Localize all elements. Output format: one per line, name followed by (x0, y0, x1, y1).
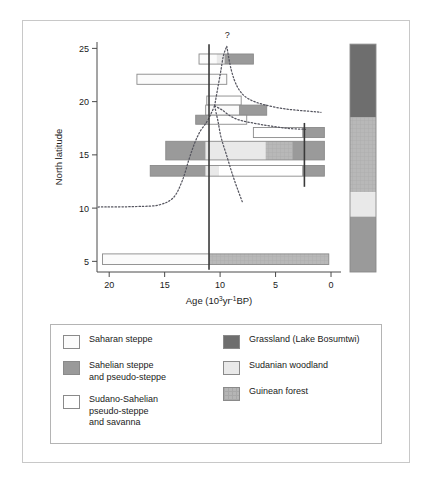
legend-label: Saharan steppe (89, 334, 153, 346)
legend-label: Sudano-Sahelian pseudo-steppe and savann… (89, 394, 158, 429)
y-tick-label: 15 (79, 150, 89, 160)
legend-swatch (223, 387, 240, 401)
bar-segment (209, 254, 329, 265)
vegetation-band (350, 192, 376, 216)
bar-segment (206, 141, 266, 160)
x-tick-label: 5 (273, 280, 278, 290)
legend-swatch (223, 361, 240, 375)
vegetation-strip-group (350, 44, 376, 272)
legend-label: Guinean forest (249, 386, 308, 398)
vegetation-band (350, 217, 376, 272)
y-axis-title: North latitude (53, 129, 64, 186)
chart-bar (103, 254, 329, 265)
plot-area-wrapper: 25201510520151050North latitudeAge (103y… (0, 0, 432, 320)
legend-label: Sahelian steppe and pseudo-steppe (89, 360, 166, 383)
x-tick-label: 0 (329, 280, 334, 290)
x-tick-label: 10 (215, 280, 225, 290)
legend-swatch (223, 335, 240, 349)
legend-label: Sudanian woodland (249, 360, 328, 372)
legend-swatch (63, 395, 80, 409)
y-tick-label: 20 (79, 97, 89, 107)
legend-swatch (63, 361, 80, 375)
chart-bar (150, 166, 324, 177)
chart-bar (166, 141, 325, 160)
bar-segment (302, 166, 324, 177)
bar-segment (199, 54, 217, 64)
chart-bar (207, 96, 241, 105)
chart-bar (137, 74, 227, 84)
question-annotation: ? (225, 30, 230, 40)
bar-segment (166, 141, 206, 160)
legend-item: Guinean forest (223, 386, 379, 401)
legend-label: Grassland (Lake Bosumtwi) (249, 334, 360, 346)
bar-segment (208, 115, 247, 124)
vegetation-band (350, 118, 376, 193)
x-tick-label: 15 (160, 280, 170, 290)
bar-segment (219, 166, 302, 177)
legend-item: Sahelian steppe and pseudo-steppe (63, 360, 223, 383)
bar-segment (137, 74, 227, 84)
chart-svg: 25201510520151050North latitudeAge (103y… (0, 0, 432, 320)
bar-segment (239, 105, 267, 115)
legend-item: Sudano-Sahelian pseudo-steppe and savann… (63, 394, 223, 429)
x-axis-title: Age (103yr-1BP) (186, 295, 252, 307)
bars-group (103, 54, 329, 265)
legend-swatch (63, 335, 80, 349)
bar-segment (266, 141, 293, 160)
bar-segment (207, 96, 241, 105)
legend-column-right: Grassland (Lake Bosumtwi)Sudanian woodla… (223, 334, 379, 412)
bar-segment (103, 254, 209, 265)
bar-segment (292, 141, 324, 160)
legend-item: Sudanian woodland (223, 360, 379, 375)
x-tick-label: 20 (104, 280, 114, 290)
bar-segment (150, 166, 205, 177)
y-tick-label: 10 (79, 204, 89, 214)
figure-root: 25201510520151050North latitudeAge (103y… (0, 0, 432, 481)
chart-bar (199, 54, 253, 64)
y-tick-label: 5 (84, 257, 89, 267)
y-tick-label: 25 (79, 44, 89, 54)
vegetation-band (350, 44, 376, 117)
legend: Saharan steppeSahelian steppe and pseudo… (50, 324, 382, 444)
legend-item: Saharan steppe (63, 334, 223, 349)
bar-segment (225, 54, 254, 64)
legend-column-left: Saharan steppeSahelian steppe and pseudo… (63, 334, 223, 440)
legend-item: Grassland (Lake Bosumtwi) (223, 334, 379, 349)
bar-segment (206, 166, 219, 177)
